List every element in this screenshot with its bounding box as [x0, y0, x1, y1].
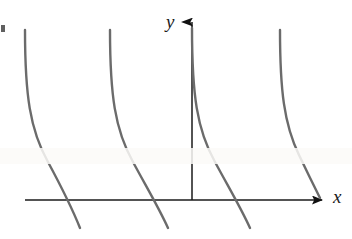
scan-edge-artifact [1, 25, 5, 32]
function-curves-group [25, 28, 320, 228]
function-branch-branch-4 [280, 30, 320, 198]
y-axis-label: y [166, 12, 174, 31]
graph-svg [0, 0, 352, 239]
x-axis-label: x [333, 187, 341, 206]
function-branch-branch-3 [192, 28, 250, 228]
function-branch-branch-1 [25, 30, 80, 228]
axes-group [25, 22, 322, 200]
function-branch-branch-2 [110, 30, 168, 228]
figure-canvas: y x [0, 0, 352, 239]
